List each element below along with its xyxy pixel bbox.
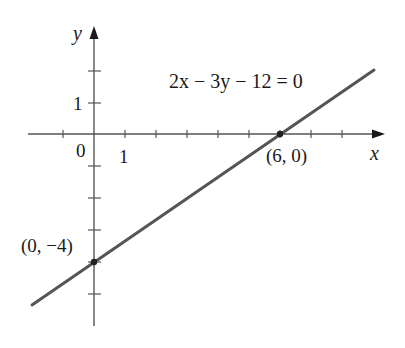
y-tick-label-1: 1 xyxy=(73,93,83,114)
x-axis-arrow-icon xyxy=(372,130,385,139)
equation-line xyxy=(32,70,374,305)
graph: y x 0 1 1 2x − 3y − 12 = 0 (6, 0) (0, −4… xyxy=(0,0,405,348)
y-axis-label: y xyxy=(71,22,82,45)
x-tick-label-1: 1 xyxy=(119,146,129,167)
x-intercept-label: (6, 0) xyxy=(266,145,307,167)
y-intercept-point xyxy=(91,259,97,265)
equation-label: 2x − 3y − 12 = 0 xyxy=(169,70,303,93)
origin-label: 0 xyxy=(76,140,86,161)
y-intercept-label: (0, −4) xyxy=(21,235,73,257)
y-axis-arrow-icon xyxy=(90,26,99,39)
x-axis-label: x xyxy=(369,142,379,164)
x-intercept-point xyxy=(277,131,283,137)
